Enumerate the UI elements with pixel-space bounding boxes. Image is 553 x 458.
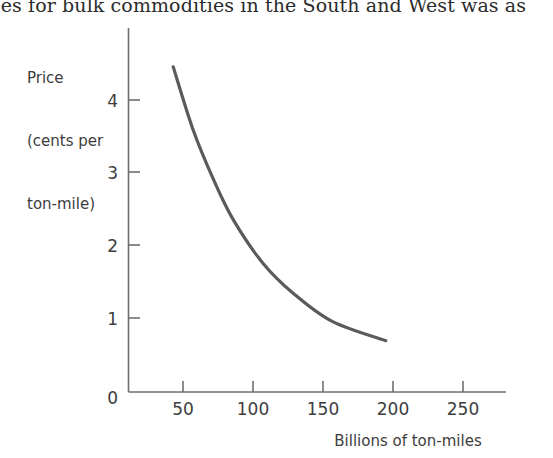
x-tick-label-100: 100 — [237, 399, 269, 419]
y-tick-label-1: 1 — [107, 309, 118, 329]
price-curve — [173, 67, 386, 341]
y-tick-labels: 4 3 2 1 0 — [107, 91, 118, 408]
y-tick-label-2: 2 — [107, 236, 118, 256]
x-tick-label-150: 150 — [307, 399, 339, 419]
x-tick-labels: 50 100 150 200 250 — [172, 399, 479, 419]
x-axis-ticks — [183, 381, 463, 392]
chart-svg: 4 3 2 1 0 50 100 150 200 250 Billions of… — [0, 0, 553, 458]
y-tick-label-4: 4 — [107, 91, 118, 111]
y-tick-label-3: 3 — [107, 163, 118, 183]
price-volume-chart: 4 3 2 1 0 50 100 150 200 250 Billions of… — [0, 0, 553, 458]
y-tick-label-0: 0 — [107, 388, 118, 408]
y-axis-ticks — [128, 100, 140, 318]
x-tick-label-250: 250 — [447, 399, 479, 419]
x-axis-title: Billions of ton-miles — [334, 432, 482, 450]
x-tick-label-200: 200 — [377, 399, 409, 419]
x-tick-label-50: 50 — [172, 399, 194, 419]
